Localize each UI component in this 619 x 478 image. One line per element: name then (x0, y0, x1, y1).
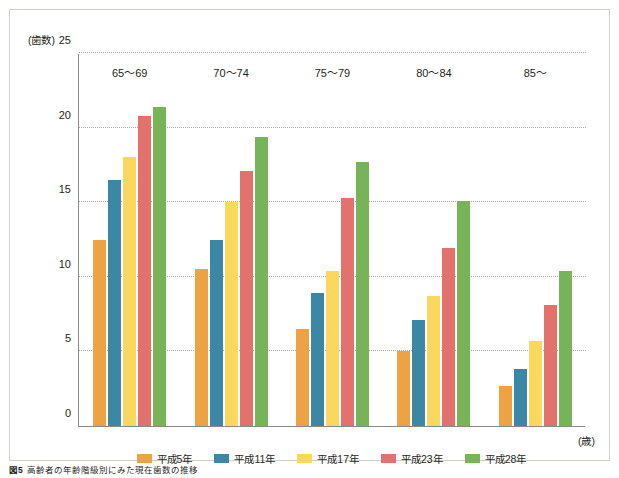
bar (412, 320, 425, 426)
bar (296, 329, 309, 426)
x-tick-label: 85〜 (485, 64, 586, 80)
y-tick-label: 5 (45, 332, 71, 344)
bar (544, 305, 557, 426)
bar-group: 75〜79 (282, 54, 383, 426)
bar (108, 180, 121, 426)
y-tick-label: 10 (45, 258, 71, 270)
bar (427, 296, 440, 426)
bar (138, 116, 151, 426)
bar-group: 70〜74 (180, 54, 281, 426)
bar (397, 351, 410, 426)
legend-swatch (465, 454, 480, 463)
bar (255, 137, 268, 426)
x-tick-label: 65〜69 (79, 64, 180, 80)
bar (240, 171, 253, 426)
bar (442, 248, 455, 426)
gridline-25 (79, 52, 586, 53)
legend-swatch (137, 454, 152, 463)
bar (559, 271, 572, 426)
legend-swatch (297, 454, 312, 463)
bar-group: 80〜84 (383, 54, 484, 426)
bar (225, 202, 238, 426)
bar-group: 65〜69 (79, 54, 180, 426)
bar (529, 341, 542, 426)
y-tick-label: 15 (45, 183, 71, 195)
y-tick-label: 0 (45, 407, 71, 419)
bar (153, 107, 166, 426)
figure-caption: 図5高齢者の年齢階級別にみた現在歯数の推移 (9, 464, 609, 478)
chart-card: (歯数) 0510152025 65〜6970〜7475〜7980〜8485〜 … (9, 9, 610, 461)
bar (457, 201, 470, 426)
figure-root: (歯数) 0510152025 65〜6970〜7475〜7980〜8485〜 … (0, 0, 619, 478)
bar (514, 369, 527, 426)
x-axis-unit-label: (歳) (578, 433, 595, 448)
bar (210, 240, 223, 427)
bar (326, 271, 339, 426)
y-tick-label: 25 (45, 34, 71, 46)
bar (311, 293, 324, 426)
figure-caption-text: 高齢者の年齢階級別にみた現在歯数の推移 (27, 465, 198, 475)
x-tick-label: 75〜79 (282, 64, 383, 80)
x-tick-label: 80〜84 (383, 64, 484, 80)
bar (356, 162, 369, 426)
bar-group: 85〜 (485, 54, 586, 426)
bar (93, 240, 106, 427)
legend-swatch (214, 454, 229, 463)
figure-caption-number: 図5 (9, 465, 23, 475)
bar (499, 386, 512, 426)
y-tick-label: 20 (45, 109, 71, 121)
bar (195, 269, 208, 426)
bar (123, 157, 136, 426)
legend-swatch (381, 454, 396, 463)
bar (341, 198, 354, 426)
plot-area: 0510152025 65〜6970〜7475〜7980〜8485〜 (78, 54, 585, 427)
x-tick-label: 70〜74 (180, 64, 281, 80)
